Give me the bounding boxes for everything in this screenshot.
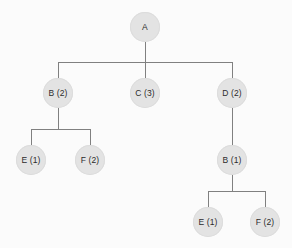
tree-node-n7[interactable]: E (1) <box>193 207 223 237</box>
tree-node-label: A <box>142 23 148 32</box>
tree-node-n0[interactable]: A <box>130 12 160 42</box>
tree-node-label: E (1) <box>22 156 41 165</box>
tree-node-n2[interactable]: C (3) <box>130 78 160 108</box>
tree-node-label: B (1) <box>223 156 242 165</box>
tree-node-label: D (2) <box>222 89 241 98</box>
tree-node-n4[interactable]: E (1) <box>16 145 46 175</box>
tree-node-label: B (2) <box>49 89 68 98</box>
tree-node-label: F (2) <box>81 156 99 165</box>
tree-node-n1[interactable]: B (2) <box>43 78 73 108</box>
tree-node-label: E (1) <box>199 218 218 227</box>
tree-diagram: AB (2)C (3)D (2)E (1)F (2)B (1)E (1)F (2… <box>0 0 292 248</box>
tree-node-n6[interactable]: B (1) <box>217 145 247 175</box>
tree-node-n8[interactable]: F (2) <box>250 207 280 237</box>
connector-group <box>31 42 265 207</box>
tree-node-n3[interactable]: D (2) <box>217 78 247 108</box>
tree-node-n5[interactable]: F (2) <box>75 145 105 175</box>
tree-node-label: C (3) <box>135 89 154 98</box>
tree-node-label: F (2) <box>256 218 274 227</box>
